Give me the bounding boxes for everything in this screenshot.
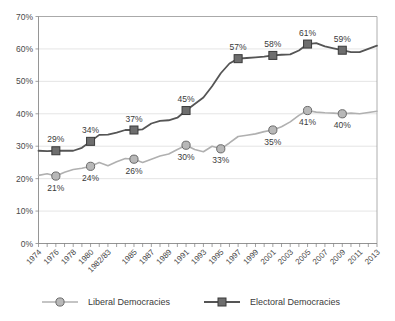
data-point-label: 35% [264, 137, 281, 147]
data-point-marker-circle [130, 155, 138, 163]
x-axis-tick-label: 2007 [311, 247, 330, 266]
data-point-label: 58% [264, 39, 281, 49]
data-point-label: 29% [47, 134, 64, 144]
legend-marker-square [218, 298, 226, 306]
data-point-marker-square [182, 107, 190, 115]
data-point-marker-square [269, 51, 277, 59]
x-axis-tick-label: 1985 [120, 247, 139, 266]
x-axis-tick-label: 2001 [259, 247, 278, 266]
y-axis-tick-label: 20% [16, 174, 33, 184]
data-point-label: 33% [212, 155, 229, 165]
y-axis-tick-label: 0% [21, 239, 34, 249]
legend-marker-circle [56, 298, 64, 306]
data-point-marker-square [130, 126, 138, 134]
x-axis-tick-label: 2003 [276, 247, 295, 266]
series-line-electoral-democracies [39, 43, 378, 151]
x-axis-tick-label: 2011 [346, 247, 365, 266]
data-point-marker-square [338, 46, 346, 54]
x-axis-tick-label: 1991 [172, 247, 191, 266]
x-axis-tick-label: 1978 [59, 247, 78, 266]
data-point-marker-circle [303, 106, 311, 114]
data-point-label: 57% [230, 42, 247, 52]
data-point-marker-circle [182, 141, 190, 149]
data-point-marker-circle [217, 145, 225, 153]
y-axis-tick-label: 40% [16, 109, 33, 119]
x-axis-tick-label: 1997 [224, 247, 243, 266]
x-axis-tick-label: 1989 [155, 247, 174, 266]
data-point-marker-square [234, 55, 242, 63]
line-chart: 0%10%20%30%40%50%60%70% 1974197619781980… [0, 0, 395, 321]
x-axis-tick-label: 1993 [189, 247, 208, 266]
x-axis-tick-label: 2009 [328, 247, 347, 266]
chart-legend: Liberal DemocraciesElectoral Democracies [42, 297, 341, 307]
legend-label-liberal-democracies: Liberal Democracies [88, 297, 171, 307]
data-point-marker-circle [338, 110, 346, 118]
y-axis-tick-labels: 0%10%20%30%40%50%60%70% [16, 12, 39, 249]
data-point-label: 61% [299, 28, 316, 38]
x-axis-tick-labels: 19741976197819801982/8319851987198919911… [24, 247, 382, 274]
data-point-label: 41% [299, 117, 316, 127]
data-point-marker-circle [269, 126, 277, 134]
x-axis-tick-label: 2013 [363, 247, 382, 266]
x-axis-tick-label: 1976 [42, 247, 61, 266]
y-axis-tick-label: 30% [16, 141, 33, 151]
data-point-label: 59% [334, 34, 351, 44]
data-point-marker-square [87, 137, 95, 145]
x-axis-tick-label: 2005 [294, 247, 313, 266]
data-point-label: 30% [178, 152, 195, 162]
legend-label-electoral-democracies: Electoral Democracies [250, 297, 341, 307]
data-point-label: 40% [334, 120, 351, 130]
series-markers-group [52, 40, 347, 180]
data-point-label: 37% [125, 114, 142, 124]
y-axis-tick-label: 10% [16, 206, 33, 216]
data-point-marker-circle [52, 172, 60, 180]
y-axis-tick-label: 70% [16, 12, 33, 22]
data-point-marker-square [52, 147, 60, 155]
data-point-label: 26% [125, 166, 142, 176]
data-point-label: 45% [178, 94, 195, 104]
x-axis-tick-label: 1987 [137, 247, 156, 266]
y-axis-tick-label: 60% [16, 44, 33, 54]
data-point-label: 21% [47, 183, 64, 193]
data-point-label: 34% [82, 125, 99, 135]
data-point-marker-square [304, 40, 312, 48]
y-axis-tick-label: 50% [16, 76, 33, 86]
x-axis-tick-label: 1995 [207, 247, 226, 266]
x-axis-tick-marks [39, 244, 378, 248]
data-point-marker-circle [86, 162, 94, 170]
x-axis-tick-label: 1974 [24, 247, 43, 266]
chart-container: 0%10%20%30%40%50%60%70% 1974197619781980… [0, 0, 395, 321]
series-lines-group [39, 43, 378, 176]
data-point-label: 24% [82, 173, 99, 183]
x-axis-tick-label: 1999 [241, 247, 260, 266]
